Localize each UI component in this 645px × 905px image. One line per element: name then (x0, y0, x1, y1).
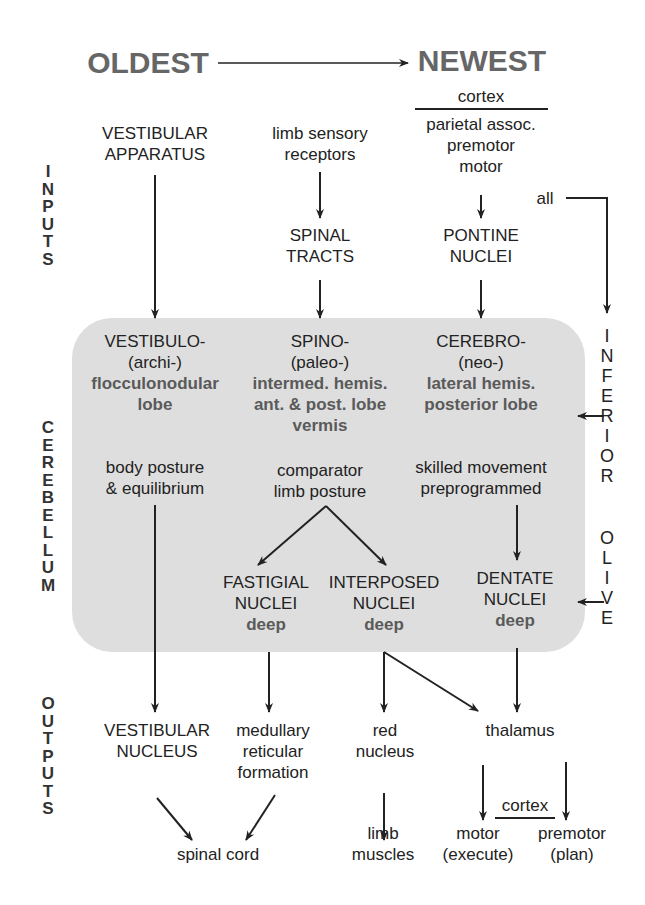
cerebro-function: skilled movementpreprogrammed (415, 457, 546, 499)
vestibular-nucleus: VESTIBULARNUCLEUS (104, 720, 210, 762)
cortex-divider-bottom (495, 817, 555, 819)
cortex-input-areas: parietal assoc.premotormotor (426, 114, 536, 177)
red-nucleus: rednucleus (356, 720, 415, 762)
thalamus: thalamus (486, 720, 555, 741)
vestibulocerebellum: VESTIBULO- (archi-) flocculonodular lobe (91, 331, 219, 415)
dentate-nuclei: DENTATE NUCLEI deep (477, 568, 554, 631)
vestibular-nucleus-to-spinal-cord-arrow (157, 798, 192, 840)
all-to-inferior-olive-arrow (566, 198, 607, 313)
vestibular-apparatus: VESTIBULARAPPARATUS (102, 123, 208, 165)
spinal-tracts: SPINALTRACTS (286, 225, 354, 267)
cerebrocerebellum: CEREBRO- (neo-) lateral hemis. posterior… (424, 331, 537, 415)
inferior-label: INFERIOR (597, 326, 617, 486)
olive-label: OLIVE (597, 528, 617, 628)
spino-function: comparatorlimb posture (274, 460, 367, 502)
spino-to-fastigial-arrow (258, 506, 326, 565)
interposed-nuclei: INTERPOSED NUCLEI deep (329, 572, 440, 635)
medullary-to-spinal-cord-arrow (246, 795, 275, 840)
interposed-to-thalamus-arrow (384, 652, 478, 711)
premotor-cortex-plan: premotor(plan) (538, 823, 606, 865)
cerebellum-side-label: CEREBELLUM (38, 419, 58, 594)
fastigial-nuclei: FASTIGIAL NUCLEI deep (223, 572, 309, 635)
inputs-side-label: INPUTS (38, 163, 58, 268)
newest-label: NEWEST (418, 44, 546, 78)
pontine-nuclei: PONTINENUCLEI (443, 225, 519, 267)
cortex-output-header: cortex (502, 795, 548, 816)
outputs-side-label: OUTPUTS (38, 695, 58, 818)
oldest-label: OLDEST (87, 46, 209, 80)
limb-muscles: limbmuscles (352, 823, 414, 865)
spinal-cord: spinal cord (177, 844, 259, 865)
limb-sensory-receptors: limb sensoryreceptors (272, 123, 367, 165)
all-inputs-label: all (536, 188, 553, 209)
medullary-reticular-formation: medullaryreticularformation (236, 720, 310, 783)
motor-cortex-execute: motor(execute) (443, 823, 514, 865)
spino-to-interposed-arrow (326, 506, 386, 565)
vestibulo-function: body posture& equilibrium (106, 457, 204, 499)
cortex-input-header: cortex (458, 86, 504, 107)
cortex-divider-top (415, 108, 548, 110)
spinocerebellum: SPINO- (paleo-) intermed. hemis. ant. & … (252, 331, 387, 436)
